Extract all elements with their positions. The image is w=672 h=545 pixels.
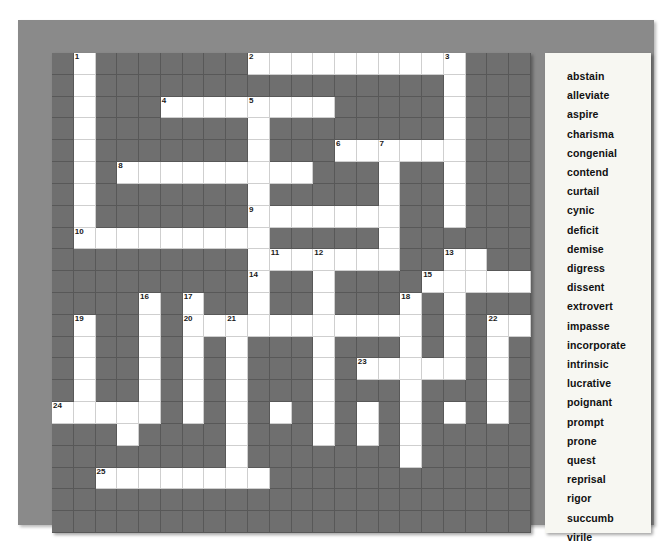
grid-cell-open[interactable]: 24 — [52, 402, 74, 424]
grid-cell-open[interactable] — [117, 424, 139, 446]
grid-cell-open[interactable] — [74, 206, 96, 228]
grid-cell-open[interactable] — [204, 315, 226, 337]
grid-cell-open[interactable]: 5 — [248, 97, 270, 119]
grid-cell-open[interactable] — [139, 228, 161, 250]
grid-cell-open[interactable]: 10 — [74, 228, 96, 250]
grid-cell-open[interactable] — [139, 402, 161, 424]
grid-cell-open[interactable] — [226, 424, 248, 446]
grid-cell-open[interactable] — [248, 293, 270, 315]
grid-cell-open[interactable]: 11 — [270, 249, 292, 271]
grid-cell-open[interactable] — [357, 249, 379, 271]
grid-cell-open[interactable]: 13 — [444, 249, 466, 271]
grid-cell-open[interactable] — [183, 380, 205, 402]
grid-cell-open[interactable] — [379, 249, 401, 271]
grid-cell-open[interactable] — [248, 315, 270, 337]
grid-cell-open[interactable] — [74, 337, 96, 359]
grid-cell-open[interactable] — [226, 358, 248, 380]
grid-cell-open[interactable] — [335, 53, 357, 75]
grid-cell-open[interactable] — [292, 249, 314, 271]
grid-cell-open[interactable] — [379, 162, 401, 184]
grid-cell-open[interactable] — [379, 206, 401, 228]
grid-cell-open[interactable] — [444, 315, 466, 337]
grid-cell-open[interactable] — [487, 380, 509, 402]
grid-cell-open[interactable] — [183, 97, 205, 119]
grid-cell-open[interactable] — [313, 402, 335, 424]
grid-cell-open[interactable] — [161, 228, 183, 250]
grid-cell-open[interactable] — [357, 53, 379, 75]
grid-cell-open[interactable] — [400, 446, 422, 468]
grid-cell-open[interactable] — [226, 97, 248, 119]
grid-cell-open[interactable] — [270, 402, 292, 424]
grid-cell-open[interactable] — [379, 53, 401, 75]
grid-cell-open[interactable] — [226, 468, 248, 490]
grid-cell-open[interactable] — [509, 315, 531, 337]
grid-cell-open[interactable]: 14 — [248, 271, 270, 293]
grid-cell-open[interactable] — [444, 118, 466, 140]
grid-cell-open[interactable]: 1 — [74, 53, 96, 75]
grid-cell-open[interactable] — [357, 206, 379, 228]
grid-cell-open[interactable] — [335, 315, 357, 337]
grid-cell-open[interactable] — [74, 402, 96, 424]
grid-cell-open[interactable] — [444, 75, 466, 97]
grid-cell-open[interactable]: 9 — [248, 206, 270, 228]
grid-cell-open[interactable]: 20 — [183, 315, 205, 337]
grid-cell-open[interactable]: 21 — [226, 315, 248, 337]
grid-cell-open[interactable] — [226, 380, 248, 402]
grid-cell-open[interactable] — [357, 140, 379, 162]
grid-cell-open[interactable] — [400, 358, 422, 380]
grid-cell-open[interactable] — [139, 337, 161, 359]
grid-cell-open[interactable] — [139, 358, 161, 380]
grid-cell-open[interactable] — [96, 402, 118, 424]
grid-cell-open[interactable] — [74, 75, 96, 97]
grid-cell-open[interactable] — [335, 249, 357, 271]
grid-cell-open[interactable]: 22 — [487, 315, 509, 337]
grid-cell-open[interactable] — [204, 228, 226, 250]
grid-cell-open[interactable] — [400, 337, 422, 359]
grid-cell-open[interactable]: 7 — [379, 140, 401, 162]
grid-cell-open[interactable] — [117, 228, 139, 250]
grid-cell-open[interactable] — [444, 184, 466, 206]
grid-cell-open[interactable] — [226, 162, 248, 184]
grid-cell-open[interactable] — [313, 206, 335, 228]
grid-cell-open[interactable] — [313, 337, 335, 359]
grid-cell-open[interactable] — [74, 358, 96, 380]
grid-cell-open[interactable] — [313, 53, 335, 75]
grid-cell-open[interactable] — [161, 162, 183, 184]
grid-cell-open[interactable] — [270, 162, 292, 184]
grid-cell-open[interactable] — [74, 118, 96, 140]
grid-cell-open[interactable] — [161, 468, 183, 490]
grid-cell-open[interactable] — [313, 380, 335, 402]
grid-cell-open[interactable] — [74, 162, 96, 184]
grid-cell-open[interactable] — [248, 468, 270, 490]
grid-cell-open[interactable] — [400, 140, 422, 162]
grid-cell-open[interactable]: 4 — [161, 97, 183, 119]
grid-cell-open[interactable] — [444, 402, 466, 424]
crossword-grid-container[interactable]: 1234567891011121314151617181920212223242… — [52, 53, 531, 533]
grid-cell-open[interactable] — [183, 468, 205, 490]
grid-cell-open[interactable] — [74, 184, 96, 206]
grid-cell-open[interactable] — [466, 249, 488, 271]
grid-cell-open[interactable] — [248, 118, 270, 140]
grid-cell-open[interactable]: 6 — [335, 140, 357, 162]
grid-cell-open[interactable]: 18 — [400, 293, 422, 315]
grid-cell-open[interactable] — [400, 424, 422, 446]
grid-cell-open[interactable] — [400, 315, 422, 337]
grid-cell-open[interactable] — [270, 53, 292, 75]
grid-cell-open[interactable] — [183, 162, 205, 184]
grid-cell-open[interactable]: 8 — [117, 162, 139, 184]
grid-cell-open[interactable] — [466, 271, 488, 293]
grid-cell-open[interactable] — [139, 315, 161, 337]
grid-cell-open[interactable] — [444, 271, 466, 293]
grid-cell-open[interactable] — [487, 358, 509, 380]
grid-cell-open[interactable] — [379, 315, 401, 337]
grid-cell-open[interactable]: 17 — [183, 293, 205, 315]
grid-cell-open[interactable] — [183, 228, 205, 250]
grid-cell-open[interactable] — [270, 206, 292, 228]
grid-cell-open[interactable] — [270, 315, 292, 337]
grid-cell-open[interactable] — [139, 162, 161, 184]
grid-cell-open[interactable] — [204, 468, 226, 490]
grid-cell-open[interactable]: 16 — [139, 293, 161, 315]
grid-cell-open[interactable] — [422, 140, 444, 162]
grid-cell-open[interactable] — [313, 315, 335, 337]
grid-cell-open[interactable] — [248, 140, 270, 162]
